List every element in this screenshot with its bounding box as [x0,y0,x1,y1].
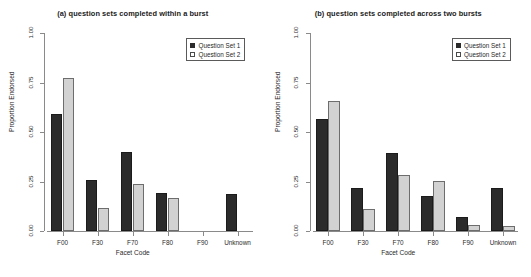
x-axis-tick-label: Unknown [490,239,517,246]
legend-item: Question Set 2 [190,51,240,58]
legend-swatch-open-square-icon [456,52,461,57]
legend-swatch-open-square-icon [190,52,195,57]
bar [386,153,398,231]
panel-a-x-axis-title: Facet Code [0,249,266,256]
panel-b-plot-area [311,33,521,231]
panel-a-plot-area [45,33,255,231]
legend-item-label: Question Set 1 [199,42,241,49]
legend-swatch-filled-square-icon [190,43,195,48]
legend-item: Question Set 1 [190,42,240,49]
panel-a-title: (a) question sets completed within a bur… [0,9,266,18]
legend-item: Question Set 2 [456,51,506,58]
legend: Question Set 1Question Set 2 [186,38,245,61]
panel-a: (a) question sets completed within a bur… [0,0,266,277]
panel-b: (b) question sets completed across two b… [266,0,531,277]
panel-b-x-axis-title: Facet Code [266,249,531,256]
y-axis-tick [306,231,310,232]
y-axis-tick [306,182,310,183]
x-axis-tick [63,232,64,236]
x-axis-tick-label: Unknown [224,239,251,246]
y-axis-tick [40,231,44,232]
legend: Question Set 1Question Set 2 [452,38,511,61]
legend-item: Question Set 1 [456,42,506,49]
y-axis-tick-label: 0.75 [0,79,36,86]
x-axis-tick-label: F80 [427,239,438,246]
y-axis-tick [40,182,44,183]
x-axis-tick [398,232,399,236]
x-axis-tick [203,232,204,236]
x-axis-tick [238,232,239,236]
legend-item-label: Question Set 2 [464,51,506,58]
x-axis-tick-label: F00 [57,239,68,246]
bar [316,119,328,231]
panel-b-title: (b) question sets completed across two b… [266,9,531,18]
y-axis-tick-label: 0.00 [0,227,36,234]
bar [456,217,468,231]
x-axis-tick-label: F30 [92,239,103,246]
y-axis-tick [40,83,44,84]
bar [51,114,63,231]
y-axis-tick-label: 0.50 [266,128,302,135]
y-axis-tick [40,33,44,34]
x-axis-tick-label: F90 [462,239,473,246]
bar [156,193,168,231]
x-axis-line [313,231,518,232]
legend-swatch-filled-square-icon [456,43,461,48]
bar [398,175,410,231]
bar [168,198,180,231]
x-axis-tick [468,232,469,236]
x-axis-tick-label: F80 [162,239,173,246]
bar [133,184,145,231]
x-axis-tick-label: F30 [357,239,368,246]
bar [363,209,375,231]
x-axis-tick [503,232,504,236]
bar [491,188,503,231]
legend-item-label: Question Set 2 [199,51,241,58]
bar [421,196,433,231]
x-axis-line [47,231,252,232]
y-axis-tick-label: 1.00 [266,29,302,36]
y-axis-tick-label: 0.25 [0,178,36,185]
figure-bar-chart-pair: (a) question sets completed within a bur… [0,0,531,277]
x-axis-tick [168,232,169,236]
legend-item-label: Question Set 1 [464,42,506,49]
x-axis-tick-label: F70 [127,239,138,246]
y-axis-tick-label: 0.25 [266,178,302,185]
y-axis-tick-label: 0.75 [266,79,302,86]
bar [351,188,363,231]
y-axis-tick [306,83,310,84]
bar [226,194,238,231]
bar [63,78,75,231]
x-axis-tick-label: F90 [197,239,208,246]
x-axis-tick [363,232,364,236]
bar [121,152,133,231]
x-axis-tick [433,232,434,236]
y-axis-tick-label: 0.50 [0,128,36,135]
y-axis-tick-label: 0.00 [266,227,302,234]
bar [433,181,445,231]
y-axis-tick [306,132,310,133]
bar [86,180,98,231]
y-axis-tick-label: 1.00 [0,29,36,36]
x-axis-tick-label: F70 [392,239,403,246]
x-axis-tick [133,232,134,236]
y-axis-tick [306,33,310,34]
x-axis-tick [328,232,329,236]
bar [328,101,340,231]
x-axis-tick-label: F00 [322,239,333,246]
y-axis-tick [40,132,44,133]
x-axis-tick [98,232,99,236]
bar [98,208,110,231]
